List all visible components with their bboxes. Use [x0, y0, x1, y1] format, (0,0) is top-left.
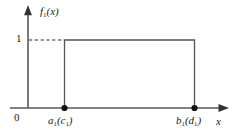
- figure-container: f1(x) x 0 1 a1(c1) b1(d1): [0, 0, 244, 136]
- right-bound-marker-dot: [191, 105, 197, 111]
- y-tick-label-1: 1: [16, 33, 22, 44]
- origin-label: 0: [14, 112, 20, 123]
- right-bound-mid: (d: [185, 114, 194, 126]
- x-tick-label-right-bound: b1(d1): [176, 115, 201, 126]
- left-bound-marker-dot: [61, 105, 67, 111]
- y-axis-label-subscript: 1: [43, 11, 46, 18]
- left-bound-subscript-2: 1: [65, 120, 68, 127]
- right-bound-tail: ): [197, 114, 201, 126]
- x-axis-label-base: x: [216, 115, 221, 127]
- x-axis-label: x: [216, 116, 221, 127]
- left-bound-tail: ): [69, 114, 73, 126]
- function-curve-f1: [65, 40, 195, 108]
- left-bound-subscript: 1: [54, 120, 57, 127]
- left-bound-base: a: [48, 114, 54, 126]
- right-bound-base: b: [176, 114, 182, 126]
- x-tick-label-left-bound: a1(c1): [48, 115, 73, 126]
- y-axis-arrowhead: [24, 5, 32, 15]
- right-bound-subscript-2: 1: [194, 120, 197, 127]
- x-axis-arrowhead: [219, 104, 230, 112]
- right-bound-subscript: 1: [182, 120, 185, 127]
- y-axis-label-tail: (x): [46, 5, 58, 17]
- plot-canvas: [0, 0, 244, 136]
- y-axis-label: f1(x): [40, 6, 59, 17]
